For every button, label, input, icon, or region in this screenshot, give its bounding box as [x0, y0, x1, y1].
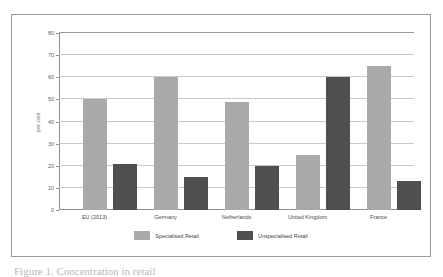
- x-tick-label: Germany: [130, 214, 201, 220]
- bar-groups: [59, 33, 414, 210]
- bar[interactable]: [83, 99, 107, 210]
- y-tick-label: 80: [48, 30, 54, 36]
- legend-swatch: [237, 231, 253, 240]
- figure-caption: Figure 1. Concentration in retail: [14, 265, 434, 277]
- x-tick-label: EU (2013): [59, 214, 130, 220]
- legend-swatch: [134, 231, 150, 240]
- bar-group: [130, 33, 201, 210]
- x-tick-label: United Kingdom: [272, 214, 343, 220]
- x-axis-tick-labels: EU (2013)GermanyNetherlandsUnited Kingdo…: [59, 214, 414, 220]
- bar-group: [272, 33, 343, 210]
- bar-group: [343, 33, 414, 210]
- legend-label: Unspecialised Retail: [258, 233, 308, 239]
- bar[interactable]: [296, 155, 320, 210]
- y-tick-label: 10: [48, 185, 54, 191]
- figure-frame: per cent 01020304050607080 EU (2013)Germ…: [11, 14, 431, 257]
- legend-label: Specialised Retail: [155, 233, 199, 239]
- bar[interactable]: [367, 66, 391, 210]
- y-tick-label: 70: [48, 52, 54, 58]
- x-tick-label: Netherlands: [201, 214, 272, 220]
- y-tick-label: 20: [48, 163, 54, 169]
- plot-area: 01020304050607080: [59, 33, 414, 210]
- y-axis-title: per cent: [35, 92, 41, 152]
- x-tick-label: France: [343, 214, 414, 220]
- legend-item[interactable]: Specialised Retail: [134, 231, 199, 240]
- y-tick-label: 30: [48, 141, 54, 147]
- y-tick-mark: [56, 210, 59, 211]
- bar-group: [201, 33, 272, 210]
- y-tick-label: 60: [48, 74, 54, 80]
- y-tick-label: 40: [48, 119, 54, 125]
- legend-item[interactable]: Unspecialised Retail: [237, 231, 308, 240]
- y-tick-label: 0: [51, 207, 54, 213]
- bar[interactable]: [154, 77, 178, 210]
- y-tick-label: 50: [48, 96, 54, 102]
- bar-group: [59, 33, 130, 210]
- bar[interactable]: [225, 102, 249, 210]
- bar[interactable]: [397, 181, 421, 210]
- chart-legend: Specialised RetailUnspecialised Retail: [12, 231, 430, 240]
- bar-chart: per cent 01020304050607080 EU (2013)Germ…: [12, 15, 430, 256]
